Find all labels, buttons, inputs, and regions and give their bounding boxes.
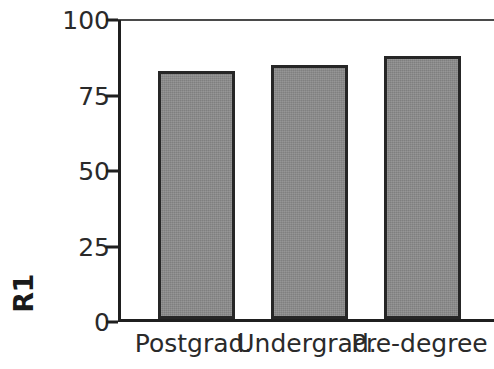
bar-undergrad	[271, 65, 348, 319]
y-axis-tick-label: 0	[40, 310, 110, 335]
bar-chart-figure: R1 1007550250 Postgrad.Undergrad.Pre-deg…	[0, 0, 494, 369]
y-axis-tick-label: 50	[40, 159, 110, 184]
y-axis-tick-mark	[106, 19, 118, 22]
y-axis-tick-label: 25	[40, 234, 110, 259]
y-axis-tick-mark	[106, 321, 118, 324]
x-axis-tick-label: Postgrad.	[135, 330, 253, 358]
bar-texture	[161, 74, 232, 316]
y-axis-tick-mark	[106, 245, 118, 248]
bar-texture	[387, 59, 458, 316]
x-axis-tick-labels: Postgrad.Undergrad.Pre-degree	[118, 330, 494, 369]
x-axis-tick-label: Pre-degree	[351, 330, 487, 358]
plot-area	[118, 20, 494, 322]
y-axis-tick-labels: 1007550250	[38, 0, 110, 369]
y-axis-tick-mark	[106, 170, 118, 173]
y-axis-tick-label: 75	[40, 83, 110, 108]
y-axis-title-text: R1	[7, 274, 38, 313]
y-axis-tick-label: 100	[40, 8, 110, 33]
bar-texture	[274, 68, 345, 316]
bar-postgrad	[158, 71, 235, 319]
y-axis-tick-mark	[106, 94, 118, 97]
bar-pre-degree	[384, 56, 461, 319]
